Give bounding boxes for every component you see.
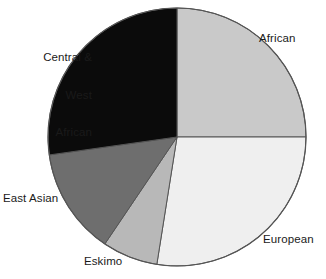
pie-slice-african xyxy=(177,8,306,137)
slice-label-line-2: West xyxy=(14,89,92,102)
slice-label-line-1: Central & xyxy=(14,51,92,64)
pie-slice-european xyxy=(157,137,306,266)
slice-label-african: African xyxy=(259,32,296,45)
slice-label-east-asian: East Asian xyxy=(3,192,58,205)
slice-label-eskimo: Eskimo xyxy=(84,255,122,268)
slice-label-central-west-african: Central & West African xyxy=(14,26,92,164)
pie-chart: Central & West African African European … xyxy=(0,0,326,279)
slice-label-line-3: African xyxy=(14,126,92,139)
slice-label-european: European xyxy=(263,233,314,246)
